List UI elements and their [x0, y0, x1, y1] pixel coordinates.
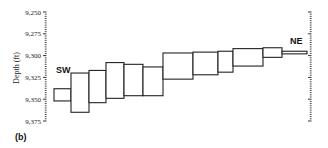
- sw-direction-label: SW: [56, 65, 71, 75]
- depth-profile-chart: 9,2509,2759,3009,3259,3509,375 Depth (ft…: [0, 0, 328, 148]
- panel-label: (b): [15, 132, 27, 142]
- left-depth-axis: [43, 12, 47, 121]
- right-depth-axis: [308, 12, 312, 121]
- depth-interval-box: [71, 73, 89, 112]
- depth-interval-box: [54, 89, 71, 101]
- depth-interval-box: [263, 48, 282, 58]
- depth-interval-box: [193, 52, 218, 75]
- depth-interval-box: [124, 64, 143, 95]
- y-tick-label: 9,350: [25, 96, 41, 104]
- depth-interval-box: [106, 63, 124, 99]
- depth-interval-box: [89, 70, 106, 102]
- depth-interval-box: [143, 67, 163, 96]
- depth-interval-box: [282, 51, 307, 54]
- y-tick-label: 9,250: [25, 9, 41, 17]
- y-tick-labels: 9,2509,2759,3009,3259,3509,375: [25, 9, 41, 126]
- y-axis-title: Depth (ft): [12, 52, 21, 84]
- y-tick-label: 9,325: [25, 74, 41, 82]
- y-tick-label: 9,275: [25, 30, 41, 38]
- y-tick-label: 9,375: [25, 118, 41, 126]
- ne-direction-label: NE: [290, 36, 303, 46]
- depth-interval-box: [218, 51, 233, 72]
- depth-interval-boxes: [54, 48, 307, 113]
- depth-interval-box: [163, 53, 193, 79]
- y-tick-label: 9,300: [25, 52, 41, 60]
- depth-interval-box: [233, 49, 263, 66]
